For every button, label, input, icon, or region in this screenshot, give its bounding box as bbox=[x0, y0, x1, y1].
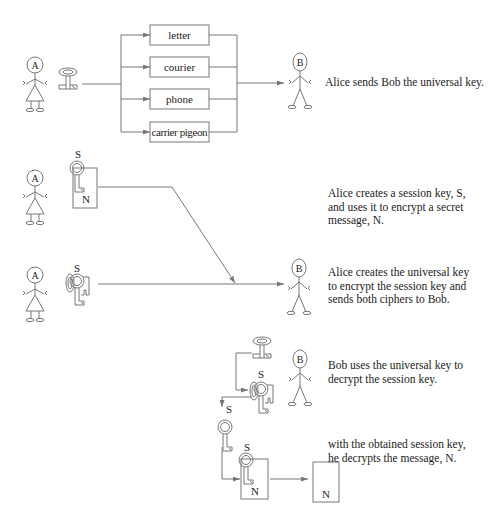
svg-text:carrier pigeon: carrier pigeon bbox=[152, 126, 209, 138]
caption-step-2: Alice creates a session key, S, and uses… bbox=[328, 187, 468, 228]
caption-step-1: Alice sends Bob the universal key. bbox=[325, 76, 485, 90]
svg-text:courier: courier bbox=[164, 61, 195, 73]
svg-text:N: N bbox=[82, 193, 90, 205]
combined-key-icon: S bbox=[66, 262, 89, 305]
svg-text:letter: letter bbox=[168, 29, 191, 41]
svg-text:A: A bbox=[31, 60, 39, 71]
svg-text:B: B bbox=[296, 263, 303, 274]
channel-phone: phone bbox=[150, 89, 209, 109]
svg-text:S: S bbox=[244, 441, 250, 453]
alice-figure-3: A bbox=[23, 267, 47, 322]
bob-figure-2: B bbox=[287, 259, 311, 315]
universal-key-icon-bob bbox=[253, 337, 271, 358]
svg-text:S: S bbox=[75, 148, 81, 160]
caption-step-3: Alice creates the universal key to encry… bbox=[328, 266, 478, 307]
channel-courier: courier bbox=[150, 57, 209, 77]
svg-text:S: S bbox=[226, 403, 232, 415]
session-key-decrypted: S bbox=[218, 403, 232, 451]
channel-carrier-pigeon: carrier pigeon bbox=[150, 122, 209, 142]
caption-step-5: with the obtained session key, he decryp… bbox=[328, 438, 478, 465]
svg-text:A: A bbox=[31, 270, 39, 281]
svg-text:N: N bbox=[322, 488, 330, 500]
svg-text:S: S bbox=[258, 368, 264, 380]
channel-letter: letter bbox=[150, 25, 209, 45]
bob-figure-1: B bbox=[288, 53, 312, 109]
svg-text:A: A bbox=[31, 173, 39, 184]
combined-key-icon-bob: S bbox=[250, 368, 273, 413]
svg-text:N: N bbox=[251, 485, 259, 497]
alice-figure-2: A bbox=[23, 170, 47, 225]
encrypted-message-box-bob: S N bbox=[239, 441, 268, 499]
universal-key-icon bbox=[59, 68, 77, 89]
encrypted-message-box: S N bbox=[70, 148, 97, 208]
key-exchange-diagram: A letter courier phone carrier pigeon B … bbox=[0, 0, 488, 522]
caption-step-4: Bob uses the universal key to decrypt th… bbox=[328, 359, 468, 386]
svg-text:S: S bbox=[74, 262, 80, 274]
svg-text:B: B bbox=[297, 354, 304, 365]
svg-text:B: B bbox=[297, 57, 304, 68]
svg-text:phone: phone bbox=[166, 93, 193, 105]
alice-figure-1: A bbox=[23, 57, 47, 112]
bob-figure-3: B bbox=[288, 350, 312, 406]
decrypted-message-box: N bbox=[313, 462, 339, 502]
